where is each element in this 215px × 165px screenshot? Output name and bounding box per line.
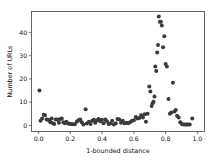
- data-point: [84, 107, 88, 111]
- x-tick-label: 0.8: [161, 135, 171, 142]
- data-point: [154, 69, 158, 73]
- data-point: [161, 45, 165, 49]
- axes-layer: [32, 12, 205, 132]
- data-point: [155, 50, 159, 54]
- data-point: [144, 120, 148, 124]
- data-point: [157, 15, 161, 19]
- data-point: [152, 100, 156, 104]
- data-point: [166, 97, 170, 101]
- y-tick-label: 10: [19, 98, 27, 105]
- data-point: [37, 89, 41, 93]
- x-tick-label: 0.2: [65, 135, 75, 142]
- data-point: [114, 121, 118, 125]
- y-axis-title: Number of URLs: [6, 45, 14, 98]
- data-point: [50, 116, 54, 120]
- data-point: [159, 20, 163, 24]
- y-tick-label: 40: [19, 29, 27, 36]
- x-tick-label: 0.0: [34, 135, 44, 142]
- data-point: [110, 119, 114, 123]
- data-point: [147, 84, 151, 88]
- x-tick-label: 0.6: [129, 135, 139, 142]
- x-axis-title: 1-bounded distance: [86, 147, 150, 155]
- data-point: [40, 116, 44, 120]
- chart-canvas: 0.00.20.40.60.81.0010203040 1-bounded di…: [0, 0, 215, 165]
- x-tick-label: 0.4: [97, 135, 107, 142]
- data-point: [190, 116, 194, 120]
- x-tick-label: 1.0: [192, 135, 202, 142]
- data-point: [153, 64, 157, 68]
- data-point: [148, 90, 152, 94]
- data-point: [171, 81, 175, 85]
- scatter-chart-figure: 0.00.20.40.60.81.0010203040 1-bounded di…: [0, 0, 215, 165]
- y-tick-label: 0: [23, 122, 27, 129]
- data-points-layer: [37, 15, 194, 127]
- data-point: [174, 108, 178, 112]
- data-point: [146, 112, 150, 116]
- data-point: [160, 23, 164, 27]
- data-point: [43, 113, 47, 117]
- data-point: [156, 43, 160, 47]
- plot-frame: [32, 12, 205, 132]
- data-point: [165, 64, 169, 68]
- data-point: [57, 121, 61, 125]
- data-point: [52, 122, 56, 126]
- data-point: [177, 116, 181, 120]
- data-point: [188, 123, 192, 127]
- y-tick-label: 30: [19, 52, 27, 59]
- data-point: [162, 34, 166, 38]
- data-point: [153, 95, 157, 99]
- data-point: [60, 116, 64, 120]
- y-tick-label: 20: [19, 75, 27, 82]
